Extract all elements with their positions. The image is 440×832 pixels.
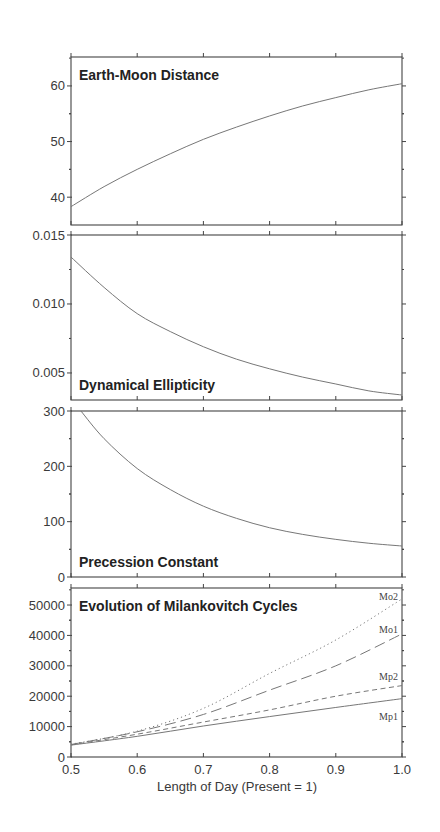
x-tick-label: 1.0 [393,762,411,777]
y-tick-label: 60 [51,78,65,93]
series-label-mp1: Mp1 [379,711,398,722]
y-tick-label: 50 [51,134,65,149]
series-line-earth-moon-distance [71,84,402,207]
x-tick-label: 0.5 [62,762,80,777]
x-tick-label: 0.6 [128,762,146,777]
x-axis-label: Length of Day (Present = 1) [157,779,317,794]
y-tick-label: 0 [58,570,65,585]
series-line-mp2 [71,686,402,745]
y-tick-label: 100 [43,514,65,529]
x-tick-label: 0.8 [261,762,279,777]
y-tick-label: 50000 [29,598,65,613]
panel-title: Dynamical Ellipticity [79,377,215,393]
series-label-mp2: Mp2 [379,671,398,682]
panel-evolution-of-milankovitch-cycles: 010000200003000040000500000.50.60.70.80.… [29,584,411,777]
y-tick-label: 20000 [29,689,65,704]
panel-dynamical-ellipticity: 0.0050.0100.015Dynamical Ellipticity [32,228,406,401]
x-tick-label: 0.9 [327,762,345,777]
y-tick-label: 40000 [29,628,65,643]
panel-title: Earth-Moon Distance [79,67,219,83]
series-line-mp1 [71,699,402,746]
panel-precession-constant: 0100200300Precession Constant [43,404,406,585]
panels: 405060Earth-Moon Distance0.0050.0100.015… [29,53,411,777]
x-tick-label: 0.7 [194,762,212,777]
series-label-mo2: Mo2 [379,591,398,602]
series-line-precession-constant [81,411,402,546]
y-tick-label: 200 [43,459,65,474]
series-line-mo1 [71,634,402,745]
series-label-mo1: Mo1 [379,624,398,635]
y-tick-label: 300 [43,404,65,419]
panel-earth-moon-distance: 405060Earth-Moon Distance [51,53,406,225]
y-tick-label: 0.010 [32,296,65,311]
y-tick-label: 0.015 [32,228,65,243]
series-line-dynamical-ellipticity [71,257,402,395]
y-tick-label: 0.005 [32,365,65,380]
plot-frame [71,411,402,577]
plot-frame [71,235,402,400]
figure: 405060Earth-Moon Distance0.0050.0100.015… [0,0,440,832]
series-line-mo2 [71,599,402,744]
y-tick-label: 30000 [29,658,65,673]
panel-title: Precession Constant [79,554,219,570]
y-tick-label: 40 [51,190,65,205]
y-tick-label: 10000 [29,719,65,734]
panel-title: Evolution of Milankovitch Cycles [79,598,298,614]
